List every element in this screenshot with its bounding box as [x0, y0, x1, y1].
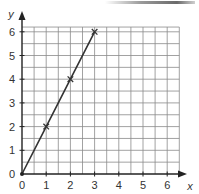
tick-labels: 01234560123456xy: [7, 8, 193, 192]
x-tick-label: 1: [43, 179, 49, 191]
x-tick-label: 4: [116, 179, 122, 191]
x-tick-label: 3: [92, 179, 98, 191]
x-axis-label: x: [186, 180, 193, 192]
y-tick-label: 4: [9, 73, 15, 85]
y-tick-label: 2: [9, 121, 15, 133]
y-tick-label: 0: [9, 168, 15, 180]
y-tick-label: 1: [9, 144, 15, 156]
origin-point: [20, 172, 24, 176]
x-tick-label: 0: [19, 179, 25, 191]
x-tick-label: 5: [140, 179, 146, 191]
axes: [19, 11, 188, 178]
y-tick-label: 6: [9, 26, 15, 38]
y-axis-arrow-icon: [19, 11, 26, 20]
y-axis-label: y: [7, 8, 15, 20]
y-tick-label: 5: [9, 50, 15, 62]
x-tick-label: 2: [67, 179, 73, 191]
line-chart: 01234560123456xy: [0, 0, 199, 194]
y-tick-label: 3: [9, 97, 15, 109]
x-tick-label: 6: [164, 179, 170, 191]
x-axis-arrow-icon: [178, 171, 187, 178]
grid: [22, 27, 179, 174]
